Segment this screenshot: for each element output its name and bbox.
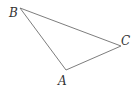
vertex-label-c: C bbox=[121, 34, 130, 48]
triangle-svg: B C A bbox=[0, 0, 140, 93]
edge-c-a bbox=[66, 46, 121, 70]
edge-b-c bbox=[20, 8, 121, 46]
edge-a-b bbox=[20, 8, 66, 70]
vertex-label-b: B bbox=[8, 6, 18, 20]
triangle-diagram: B C A bbox=[0, 0, 140, 93]
vertex-label-a: A bbox=[57, 74, 67, 88]
